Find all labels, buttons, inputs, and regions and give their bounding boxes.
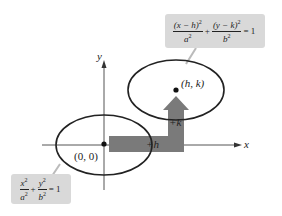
- plus-sign: +: [205, 26, 210, 36]
- center-label: (h, k): [181, 77, 205, 90]
- center-point: [173, 87, 178, 92]
- plus-k-label: +k: [169, 116, 182, 128]
- fraction-x-minus-h: (x − h)2 a2: [173, 19, 203, 44]
- plus-h-label: +h: [146, 138, 159, 150]
- origin-label: (0, 0): [74, 150, 98, 163]
- fraction-x-over-a: x2 a2: [20, 177, 29, 202]
- plus-sign: +: [31, 184, 36, 194]
- standard-equation-box: x2 a2 + y2 b2 = 1: [11, 174, 71, 204]
- fraction-y-minus-k: (y − k)2 b2: [212, 19, 242, 44]
- x-axis-label: x: [243, 138, 249, 150]
- origin-point: [101, 141, 106, 146]
- x-axis-arrowhead-icon: [234, 143, 242, 148]
- equals-one: = 1: [243, 26, 255, 36]
- y-axis-label: y: [96, 50, 102, 62]
- fraction-y-over-b: y2 b2: [38, 177, 47, 202]
- equals-one: = 1: [49, 184, 61, 194]
- translated-equation-box: (x − h)2 a2 + (y − k)2 b2 = 1: [165, 14, 265, 48]
- y-axis-arrowhead-icon: [102, 60, 107, 68]
